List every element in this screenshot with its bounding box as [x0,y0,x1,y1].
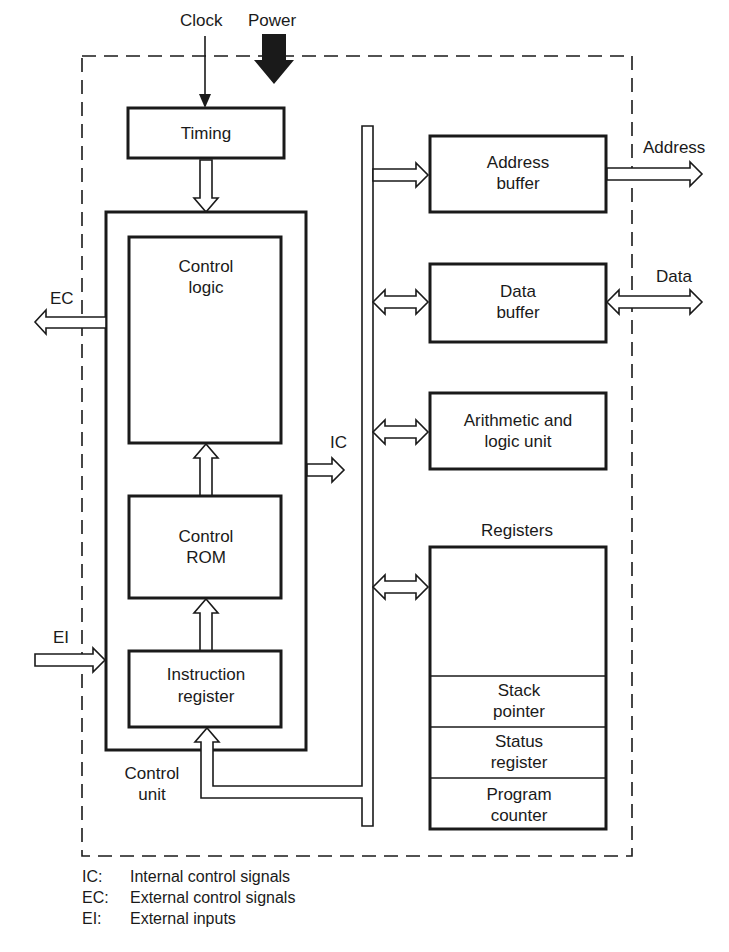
timing-label: Timing [181,124,231,143]
data-buffer-label-1: Data [500,282,536,301]
legend-text: External inputs [130,908,236,929]
microprocessor-diagram: Clock Power Timing Control logic Control… [0,0,729,952]
stack-pointer-label-1: Stack [498,681,541,700]
data-bidir-arrow-icon [607,290,702,314]
bus-alu-arrow-icon [373,420,428,444]
ec-arrow-icon [35,310,106,334]
legend-text: External control signals [130,887,295,908]
clock-arrow-icon [199,94,211,108]
data-label: Data [656,267,692,286]
address-label: Address [643,138,705,157]
bus-data-arrow-icon [373,290,428,314]
program-counter-label-1: Program [486,785,551,804]
control-rom-label-1: Control [179,527,234,546]
stack-pointer-label-2: pointer [493,702,545,721]
legend: IC: Internal control signals EC: Externa… [82,866,295,929]
power-arrow-icon [254,34,294,84]
address-out-arrow-icon [607,162,702,186]
address-buffer-label-2: buffer [496,174,540,193]
alu-label-1: Arithmetic and [464,411,573,430]
program-counter-label-2: counter [491,806,548,825]
legend-text: Internal control signals [130,866,290,887]
ei-arrow-icon [35,648,105,672]
ic-arrow-icon [307,458,344,482]
registers-title: Registers [481,521,553,540]
bus-to-address-arrow-icon [373,163,428,187]
legend-abbr: EI: [82,908,130,929]
status-register-label-1: Status [495,732,543,751]
ec-label: EC [50,289,74,308]
legend-item-ic: IC: Internal control signals [82,866,295,887]
power-label: Power [248,11,297,30]
instruction-register-label-1: Instruction [167,665,245,684]
data-buffer-label-2: buffer [496,303,540,322]
legend-abbr: IC: [82,866,130,887]
instruction-register-label-2: register [178,687,235,706]
address-buffer-label-1: Address [487,153,549,172]
alu-block [430,393,606,469]
control-rom-label-2: ROM [186,548,226,567]
legend-abbr: EC: [82,887,130,908]
status-register-label-2: register [491,753,548,772]
clock-label: Clock [180,11,223,30]
bus-registers-arrow-icon [373,575,428,599]
legend-item-ec: EC: External control signals [82,887,295,908]
ic-label: IC [330,433,347,452]
control-rom-block [129,496,281,598]
timing-to-control-arrow-icon [194,160,218,212]
control-unit-label-1: Control [125,764,180,783]
control-logic-label-1: Control [179,257,234,276]
control-unit-label-2: unit [138,785,166,804]
ei-label: EI [53,628,69,647]
legend-item-ei: EI: External inputs [82,908,295,929]
control-logic-label-2: logic [189,278,224,297]
alu-label-2: logic unit [484,432,551,451]
